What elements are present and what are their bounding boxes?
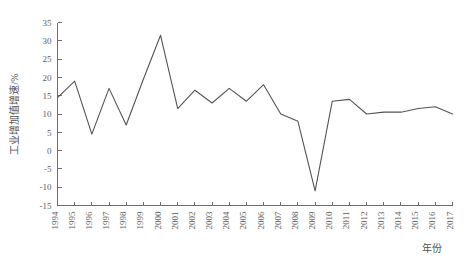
x-tick-label: 1999 [135,211,145,230]
x-tick-label: 1994 [50,211,60,230]
x-tick-label: 2009 [307,211,317,230]
y-tick-label: 15 [43,91,53,101]
chart-figure: -15-10-505101520253035199419951996199719… [0,0,469,268]
x-tick-label: 2002 [187,212,197,230]
x-tick-label: 2013 [376,211,386,230]
x-tick-label: 2015 [410,211,420,230]
x-tick-label: 2014 [393,211,403,230]
x-tick-label: 2012 [359,212,369,230]
x-tick-label: 2001 [170,212,180,230]
x-tick-label: 1998 [118,211,128,230]
y-tick-label: -5 [44,164,52,174]
y-tick-label: 30 [43,36,53,46]
x-tick-label: 2004 [221,211,231,230]
y-tick-label: 10 [43,109,53,119]
y-tick-label: 20 [43,73,53,83]
x-tick-label: 2006 [256,211,266,230]
x-tick-label: 2011 [341,212,351,230]
y-tick-label: -15 [40,201,52,211]
series-line-industrial-growth [58,35,453,191]
x-tick-label: 2003 [204,211,214,230]
y-tick-label: 0 [47,146,52,156]
x-tick-label: 1995 [67,211,77,230]
y-tick-label: 5 [47,128,52,138]
x-tick-label: 2000 [153,211,163,230]
x-tick-label: 2010 [324,211,334,230]
x-axis-title: 年份 [422,242,442,254]
x-tick-label: 2017 [445,211,455,230]
x-tick-label: 1997 [101,211,111,230]
y-tick-label: -10 [40,182,52,192]
x-tick-label: 2016 [427,211,437,230]
x-tick-label: 1996 [84,211,94,230]
line-chart-canvas: -15-10-505101520253035199419951996199719… [0,0,469,268]
y-tick-label: 25 [43,54,53,64]
x-tick-label: 2007 [273,211,283,230]
x-tick-label: 2008 [290,211,300,230]
x-tick-label: 2005 [238,211,248,230]
y-tick-label: 35 [43,18,53,28]
y-axis-title: 工业增加值增速/% [8,73,20,154]
